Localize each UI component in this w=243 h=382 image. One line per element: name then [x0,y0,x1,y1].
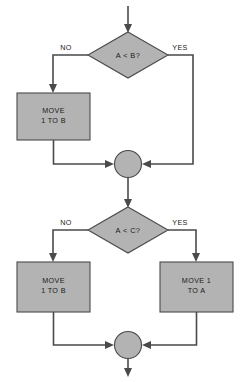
flowchart-canvas: A < B? NO MOVE 1 TO B YES [0,0,243,382]
process-node-move-1-to-a: MOVE 1 TO A [160,262,233,312]
branch-label-no-1: NO [60,43,72,52]
process-3-line1: MOVE 1 [182,276,211,285]
connector-node-1 [115,151,142,178]
process-node-move-1-to-b-top: MOVE 1 TO B [17,93,90,140]
branch-no-1 [49,55,88,93]
branch-label-yes-1: YES [172,43,188,52]
process-2-line2: 1 TO B [41,286,66,295]
process-1-to-connector-1 [54,140,115,168]
process-1-line2: 1 TO B [41,116,66,125]
process-3-line2: TO A [188,286,206,295]
process-2-line1: MOVE [42,276,65,285]
entry-arrow [124,6,132,33]
process-1-line1: MOVE [42,106,65,115]
decision-1-label: A < B? [116,51,140,60]
flowchart-diagram: A < B? NO MOVE 1 TO B YES [0,0,243,382]
process-2-to-connector-2 [54,312,115,349]
branch-no-2 [49,230,88,262]
decision-node-a-lt-b: A < B? [88,32,168,78]
connector-1-to-decision-2 [124,178,132,209]
branch-label-no-2: NO [60,218,72,227]
branch-label-yes-2: YES [172,218,188,227]
branch-yes-2 [168,230,200,262]
decision-node-a-lt-c: A < C? [88,207,168,253]
process-3-to-connector-2 [142,312,197,349]
connector-node-2 [115,332,142,359]
branch-yes-1 [142,55,193,168]
process-node-move-1-to-b-bottom: MOVE 1 TO B [17,262,90,312]
decision-2-label: A < C? [116,226,141,235]
exit-arrow [124,359,132,378]
